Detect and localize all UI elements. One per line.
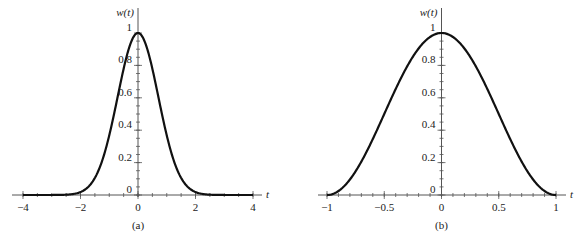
x-tick-label: −2 — [75, 201, 87, 213]
y-tick-label: 1 — [127, 21, 133, 33]
x-tick-label: 4 — [250, 201, 256, 213]
chart-panel-b: −1−0.500.5100.20.40.60.81tw(t)(b) — [318, 6, 574, 232]
x-tick-label: 2 — [193, 201, 199, 213]
y-tick-label: 0.8 — [422, 53, 436, 65]
y-tick-label: 0.2 — [422, 151, 436, 163]
y-axis-title: w(t) — [116, 6, 134, 19]
y-tick-label: 0.4 — [422, 118, 436, 130]
x-tick-label: 0.5 — [492, 201, 506, 213]
y-tick-label: 0 — [127, 183, 133, 195]
x-tick-label: −1 — [321, 201, 333, 213]
x-axis-title: t — [570, 188, 574, 200]
chart-caption: (a) — [132, 219, 145, 232]
figure: −4−202400.20.40.60.81tw(t)(a) −1−0.500.5… — [0, 0, 581, 239]
y-tick-label: 0.6 — [422, 86, 436, 98]
x-tick-label: 0 — [135, 201, 141, 213]
chart-caption: (b) — [435, 219, 448, 232]
y-tick-label: 1 — [430, 21, 436, 33]
y-tick-label: 0 — [430, 183, 436, 195]
y-tick-label: 0.4 — [118, 118, 132, 130]
x-tick-label: 1 — [553, 201, 559, 213]
y-axis-title: w(t) — [420, 6, 438, 19]
chart-panel-a: −4−202400.20.40.60.81tw(t)(a) — [12, 6, 270, 232]
x-tick-label: −0.5 — [374, 201, 394, 213]
x-axis-title: t — [266, 188, 270, 200]
x-tick-label: −4 — [17, 201, 29, 213]
y-tick-label: 0.2 — [118, 151, 132, 163]
x-tick-label: 0 — [439, 201, 445, 213]
